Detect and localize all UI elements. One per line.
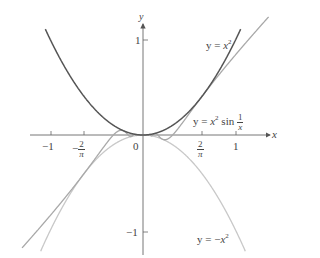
annotation-x-squared-sin: y = x2 sin 1x <box>193 113 243 132</box>
y-ticks <box>143 40 148 232</box>
x-tick-label-neg1: −1 <box>42 141 54 152</box>
x-tick-label-zero: 0 <box>133 141 139 152</box>
x-axis-label: x <box>272 129 277 140</box>
annotation-neg-x-squared: y = −x2 <box>197 233 229 245</box>
y-tick-label-1: 1 <box>135 35 141 46</box>
x-tick-label-neg-2-over-pi: −2π <box>72 140 85 159</box>
y-tick-label-neg1: −1 <box>126 227 138 238</box>
fraction: 2π <box>197 140 204 159</box>
fraction: 2π <box>78 140 85 159</box>
y-axis-label: y <box>139 12 143 22</box>
x-tick-label-1: 1 <box>233 141 239 152</box>
x-tick-label-2-over-pi: 2π <box>197 140 204 159</box>
annotation-x-squared: y = x2 <box>206 39 232 51</box>
fraction: 1x <box>237 113 244 132</box>
